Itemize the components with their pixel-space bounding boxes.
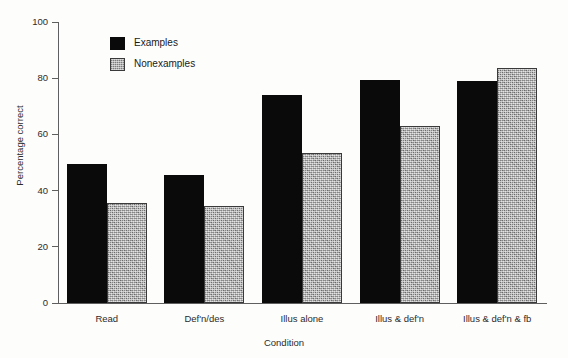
bar-examples	[164, 175, 204, 303]
bar-examples	[457, 81, 497, 303]
legend: ExamplesNonexamples	[110, 34, 195, 76]
legend-swatch-examples	[110, 37, 125, 50]
x-axis-tick-label: Illus & def'n	[351, 313, 449, 324]
y-axis-tick-label: 20	[22, 242, 48, 252]
bar-nonexamples	[497, 68, 537, 303]
bar-examples	[67, 164, 107, 303]
y-axis-tick-label: 100	[22, 17, 48, 27]
x-axis-tick-label: Illus & def'n & fb	[448, 313, 546, 324]
legend-item: Examples	[110, 34, 195, 52]
x-axis-tick-label: Def'n/des	[156, 313, 254, 324]
bar-nonexamples	[302, 153, 342, 303]
bar-examples	[262, 95, 302, 303]
x-axis-tick-label: Read	[58, 313, 156, 324]
y-axis-tick-label: 40	[22, 186, 48, 196]
legend-label: Examples	[134, 38, 178, 48]
x-axis-tick-label: Illus alone	[253, 313, 351, 324]
legend-swatch-nonexamples	[110, 58, 125, 71]
y-axis-tick-label: 60	[22, 129, 48, 139]
x-axis-title: Condition	[0, 337, 568, 348]
bar-examples	[360, 80, 400, 303]
y-axis-tick-label: 0	[22, 298, 48, 308]
legend-label: Nonexamples	[134, 59, 195, 69]
x-axis-line	[58, 303, 547, 304]
bar-nonexamples	[107, 203, 147, 303]
bar-nonexamples	[204, 206, 244, 303]
legend-item: Nonexamples	[110, 55, 195, 73]
y-axis-tick-label: 80	[22, 73, 48, 83]
bar-nonexamples	[400, 126, 440, 303]
bar-chart-figure: Percentage correct Condition 02040608010…	[0, 0, 568, 358]
